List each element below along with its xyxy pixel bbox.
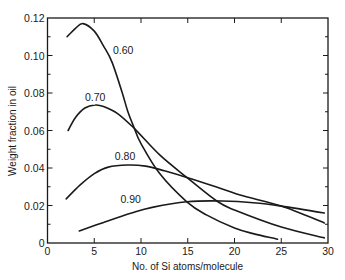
y-tick-label: 0.12: [24, 12, 45, 24]
line-chart: 05101520253000.020.040.060.080.100.12 0.…: [0, 0, 345, 280]
x-tick-label: 10: [135, 245, 147, 257]
curve-0-80: [66, 165, 324, 223]
curve-label-0-70: 0.70: [85, 91, 106, 103]
y-axis-label: Weight fraction in oil: [7, 86, 18, 176]
y-tick-label: 0.04: [24, 162, 45, 174]
curve-label-0-80: 0.80: [115, 150, 136, 162]
x-tick-label: 30: [322, 245, 334, 257]
y-tick-label: 0.10: [24, 50, 45, 62]
x-tick-label: 20: [229, 245, 241, 257]
x-tick-label: 15: [182, 245, 194, 257]
curve-label-0-90: 0.90: [120, 193, 141, 205]
y-tick-label: 0.08: [24, 87, 45, 99]
curve-0-70: [68, 105, 324, 238]
x-tick-label: 0: [45, 245, 51, 257]
plot-area-border: [48, 18, 329, 243]
data-series: [66, 24, 324, 240]
y-tick-label: 0.02: [24, 200, 45, 212]
y-tick-label: 0.06: [24, 125, 45, 137]
y-tick-label: 0: [39, 237, 45, 249]
curve-0-60: [67, 24, 277, 240]
x-tick-label: 25: [275, 245, 287, 257]
x-tick-label: 5: [91, 245, 97, 257]
chart-container: 05101520253000.020.040.060.080.100.12 0.…: [0, 0, 345, 280]
plot-frame: [48, 18, 329, 243]
axis-ticks: 05101520253000.020.040.060.080.100.12: [24, 12, 334, 257]
curve-label-0-60: 0.60: [113, 44, 134, 56]
x-axis-label: No. of Si atoms/molecule: [132, 261, 244, 272]
curve-0-90: [79, 201, 324, 231]
